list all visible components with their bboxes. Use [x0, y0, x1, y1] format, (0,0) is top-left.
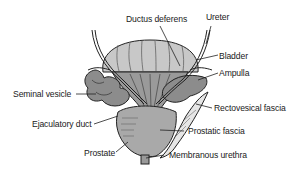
anatomy-diagram: Ductus deferens Ureter Bladder Ampulla S… [0, 0, 297, 171]
label-bladder: Bladder [219, 51, 248, 61]
membranous-urethra-shape [141, 155, 149, 164]
label-rectovesical-fascia: Rectovesical fascia [214, 103, 286, 113]
label-prostatic-fascia: Prostatic fascia [188, 126, 245, 136]
pelvic-anatomy-illustration [0, 0, 297, 171]
label-prostate: Prostate [84, 148, 115, 158]
label-ejaculatory-duct: Ejaculatory duct [32, 119, 92, 129]
label-ductus-deferens: Ductus deferens [126, 14, 187, 24]
label-ampulla: Ampulla [219, 68, 249, 78]
label-seminal-vesicle: Seminal vesicle [13, 89, 71, 99]
label-ureter: Ureter [206, 12, 229, 22]
label-membranous-urethra: Membranous urethra [169, 150, 247, 160]
